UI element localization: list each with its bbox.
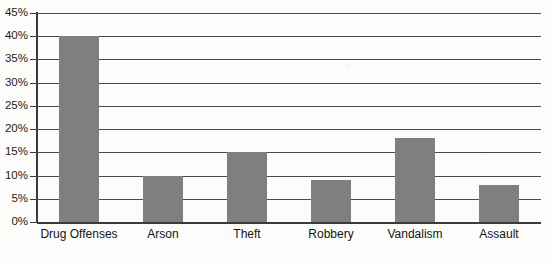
y-axis-tick-label: 10% <box>0 170 28 182</box>
y-axis-tick <box>30 106 37 107</box>
y-axis-tick <box>30 222 37 223</box>
y-axis-tick-label: 5% <box>0 193 28 205</box>
x-axis-tick-label: Arson <box>121 228 205 240</box>
x-axis-tick-label: Robbery <box>289 228 373 240</box>
gridline <box>37 129 541 130</box>
bar <box>227 152 267 222</box>
gridline <box>37 199 541 200</box>
bar <box>395 138 435 222</box>
gridline <box>37 152 541 153</box>
y-axis-tick-label: 35% <box>0 53 28 65</box>
gridline <box>37 83 541 84</box>
gridline <box>37 106 541 107</box>
y-axis-tick-label: 0% <box>0 216 28 228</box>
y-axis-tick <box>30 13 37 14</box>
gridline <box>37 176 541 177</box>
y-axis-tick <box>30 176 37 177</box>
y-axis-tick-label: 45% <box>0 7 28 19</box>
bar <box>311 180 351 222</box>
plot-area <box>37 13 541 222</box>
y-axis-tick-label: 30% <box>0 77 28 89</box>
y-axis-tick <box>30 59 37 60</box>
y-axis-tick <box>30 83 37 84</box>
y-axis-tick-label: 40% <box>0 30 28 42</box>
x-axis-tick-label: Vandalism <box>373 228 457 240</box>
y-axis-tick-label: 15% <box>0 146 28 158</box>
y-axis-tick <box>30 36 37 37</box>
y-axis-tick-label: 25% <box>0 100 28 112</box>
y-axis-tick <box>30 199 37 200</box>
y-axis-tick-labels: 0%5%10%15%20%25%30%35%40%45% <box>0 0 28 264</box>
bar <box>479 185 519 222</box>
bar <box>143 176 183 222</box>
x-axis-tick-label: Theft <box>205 228 289 240</box>
gridline <box>37 36 541 37</box>
bar-chart: 0%5%10%15%20%25%30%35%40%45% Drug Offens… <box>0 0 551 264</box>
bar <box>59 36 99 222</box>
gridline <box>37 59 541 60</box>
x-axis-tick-label: Assault <box>457 228 541 240</box>
gridline <box>37 13 541 14</box>
y-axis-tick <box>30 129 37 130</box>
y-axis-tick-label: 20% <box>0 123 28 135</box>
axis-baseline <box>37 222 541 224</box>
y-axis-tick <box>30 152 37 153</box>
x-axis-tick-label: Drug Offenses <box>37 228 121 240</box>
